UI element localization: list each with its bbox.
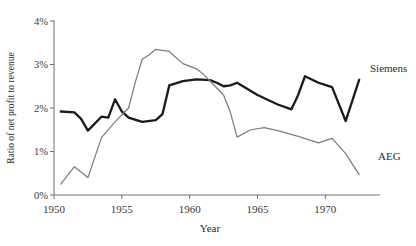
x-axis-tick-label: 1965 [246, 203, 269, 215]
y-axis-tick-label: 2% [34, 103, 48, 114]
y-axis-tick-label: 1% [34, 146, 48, 157]
chart-figure: 0%1%2%3%4%19501955196019651970 YearRatio… [0, 0, 416, 246]
y-axis-title: Ratio of net profit to revenue [5, 52, 16, 164]
x-axis-tick-label: 1970 [314, 203, 337, 215]
line-chart: 0%1%2%3%4%19501955196019651970 YearRatio… [0, 0, 416, 246]
y-axis-tick-label: 3% [34, 59, 48, 70]
series-label-siemens: Siemens [370, 62, 407, 74]
chart-axes: 0%1%2%3%4%19501955196019651970 [34, 16, 380, 215]
x-axis-tick-label: 1950 [43, 203, 66, 215]
y-axis-tick-label: 0% [34, 190, 48, 201]
x-axis-tick-label: 1955 [111, 203, 134, 215]
chart-plot-area [61, 49, 359, 184]
x-axis-title: Year [200, 222, 221, 234]
x-axis-tick-label: 1960 [179, 203, 202, 215]
series-label-aeg: AEG [378, 150, 401, 162]
y-axis-tick-label: 4% [34, 16, 48, 27]
series-line-siemens [61, 76, 359, 130]
